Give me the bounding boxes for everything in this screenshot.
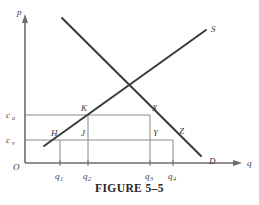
supply-curve-label: S: [211, 24, 216, 34]
point-label-k: K: [80, 103, 88, 113]
x-axis-label: q: [247, 158, 252, 168]
quantity-labels: q 1 q 2 q 3 q 4: [55, 171, 176, 182]
point-label-j: J: [81, 128, 86, 138]
y-axis-label: p: [16, 7, 22, 17]
origin-label: O: [13, 162, 20, 172]
supply-demand-diagram: p q O c u c v q 1 q 2 q 3 q 4 S D K X H: [0, 0, 259, 205]
quantity-label-q4-sub: 4: [173, 175, 176, 182]
price-label-cu-base: c: [6, 110, 10, 120]
price-label-cu-sub: u: [12, 114, 15, 121]
quantity-label-q3-sub: 3: [149, 175, 153, 182]
y-axis-arrow-icon: [22, 14, 28, 23]
price-label-cv-base: c: [6, 135, 10, 145]
point-label-z: Z: [179, 126, 185, 136]
point-label-x: X: [151, 103, 158, 113]
guide-lines: [25, 115, 173, 163]
price-label-cv-sub: v: [12, 139, 15, 146]
figure-caption: FIGURE 5–5: [0, 182, 259, 194]
point-label-y: Y: [153, 128, 159, 138]
point-label-h: H: [50, 128, 58, 138]
x-axis-arrow-icon: [233, 160, 242, 166]
price-level-labels: c u c v: [6, 110, 15, 146]
axes: [22, 14, 242, 166]
quantity-label-q1-sub: 1: [60, 175, 63, 182]
figure-container: p q O c u c v q 1 q 2 q 3 q 4 S D K X H: [0, 0, 259, 205]
quantity-label-q2-sub: 2: [88, 175, 91, 182]
demand-curve-label: D: [208, 156, 216, 166]
